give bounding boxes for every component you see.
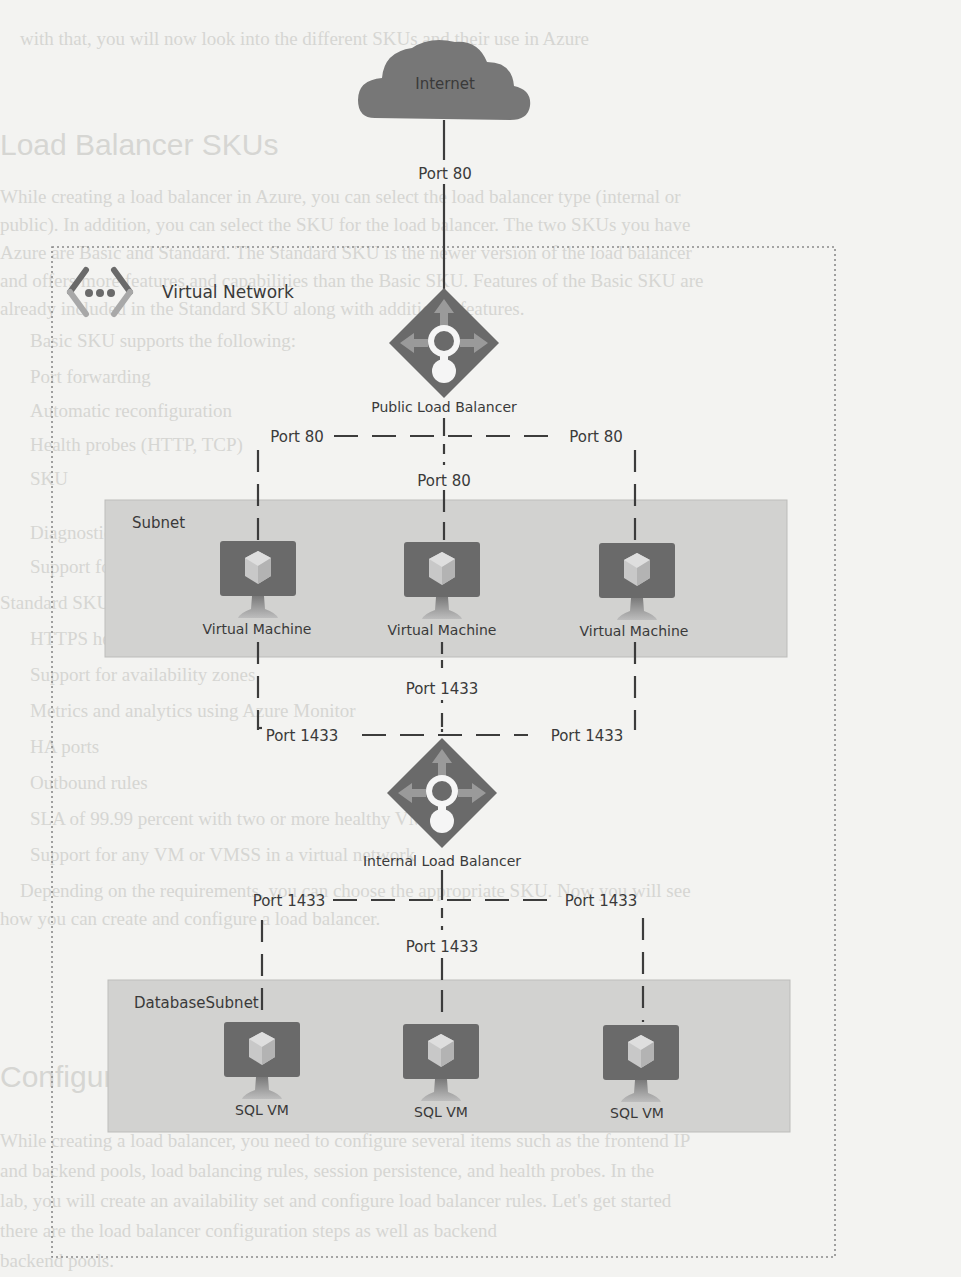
internet-label: Internet xyxy=(415,75,475,93)
vm-label: Virtual Machine xyxy=(388,622,497,638)
port-label-internal-out-center: Port 1433 xyxy=(406,938,479,956)
port-label-public-center: Port 80 xyxy=(417,472,471,490)
sql-vm-label: SQL VM xyxy=(235,1102,289,1118)
internal-load-balancer-icon xyxy=(387,738,497,848)
port-label-public-left: Port 80 xyxy=(270,428,324,446)
public-load-balancer-label: Public Load Balancer xyxy=(371,399,517,415)
sql-vm-2: SQL VM xyxy=(403,1024,479,1120)
port-label-internal-out-right: Port 1433 xyxy=(565,892,638,910)
sql-vm-label: SQL VM xyxy=(414,1104,468,1120)
vm-label: Virtual Machine xyxy=(203,621,312,637)
sql-vm-1: SQL VM xyxy=(224,1022,300,1118)
virtual-network-icon xyxy=(70,270,130,314)
subnet-label: Subnet xyxy=(132,514,185,532)
network-diagram: Internet Port 80 Virtual Network Public … xyxy=(0,0,961,1277)
sql-vm-label: SQL VM xyxy=(610,1105,664,1121)
port-label-internal-out-left: Port 1433 xyxy=(253,892,326,910)
port-label-internal-in-right: Port 1433 xyxy=(551,727,624,745)
virtual-network-label: Virtual Network xyxy=(162,282,294,302)
database-subnet-label: DatabaseSubnet xyxy=(134,994,259,1012)
port-label-public-right: Port 80 xyxy=(569,428,623,446)
internal-load-balancer-label: Internal Load Balancer xyxy=(363,853,521,869)
port-label-internal-in-left: Port 1433 xyxy=(266,727,339,745)
port-label-vm-to-internal-center: Port 1433 xyxy=(406,680,479,698)
public-load-balancer-icon xyxy=(389,288,499,398)
vm-label: Virtual Machine xyxy=(580,623,689,639)
port-label-internet: Port 80 xyxy=(418,165,472,183)
